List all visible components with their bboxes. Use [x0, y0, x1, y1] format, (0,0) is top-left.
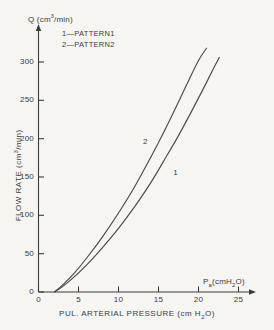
x-axis-symbol-label: Pa(cmH2O) [203, 277, 245, 288]
y-axis-symbol-label: Q (cm3/min) [28, 13, 73, 24]
y-tick-label: 200 [4, 134, 34, 143]
y-tick-label: 150 [4, 172, 34, 181]
curve-pattern1 [55, 57, 220, 292]
x-tick-label: 5 [67, 295, 91, 304]
y-axis-symbol-prefix: Q (cm [28, 15, 51, 24]
curve-label-2: 2 [143, 137, 148, 146]
x-tick-label: 10 [107, 295, 131, 304]
x-tick-label: 0 [27, 295, 51, 304]
x-axis-name-prefix: PUL. ARTERIAL PRESSURE (cm H [59, 309, 201, 318]
x-axis-symbol-suffix-a: (cmH [212, 277, 232, 286]
y-tick-label: 50 [4, 249, 34, 258]
figure-canvas: Q (cm3/min) 1—PATTERN1 2—PATTERN2 FLOW R… [0, 0, 274, 330]
x-tick-label: 20 [187, 295, 211, 304]
x-tick-label: 15 [147, 295, 171, 304]
legend: 1—PATTERN1 2—PATTERN2 [62, 29, 115, 50]
x-axis-title: PUL. ARTERIAL PRESSURE (cm H2O) [0, 309, 274, 320]
y-tick-label: 300 [4, 57, 34, 66]
x-axis-symbol-suffix-b: O) [236, 277, 245, 286]
y-axis-arrow-icon [36, 24, 41, 31]
y-axis-symbol-suffix: /min) [54, 15, 73, 24]
legend-item-pattern2: 2—PATTERN2 [62, 40, 115, 51]
legend-item-pattern1: 1—PATTERN1 [62, 29, 115, 40]
y-axis-name-exponent: 3 [13, 150, 19, 154]
y-tick-marks [39, 62, 45, 292]
curve-pattern2 [55, 48, 207, 292]
y-tick-label: 100 [4, 210, 34, 219]
y-tick-label: 250 [4, 95, 34, 104]
x-axis-name-suffix: O) [205, 309, 215, 318]
curve-label-1: 1 [173, 168, 178, 177]
x-tick-label: 25 [227, 295, 251, 304]
x-axis-arrow-icon [249, 289, 256, 294]
